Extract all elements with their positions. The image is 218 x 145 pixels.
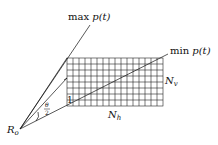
min-p-label: min p(t)	[170, 45, 211, 56]
ray-to-grid-top-left	[20, 58, 67, 129]
angle-numerator: θ	[45, 101, 49, 108]
max-p-label: max p(t)	[68, 11, 111, 22]
labels: max p(t) min p(t) Nv Nh Ro θ 2 1	[6, 11, 211, 137]
origin-label: Ro	[6, 124, 19, 137]
one-label: 1	[67, 95, 73, 105]
n-v-label: Nv	[164, 75, 178, 88]
angle-denominator: 2	[45, 109, 49, 116]
radar-grid-diagram: max p(t) min p(t) Nv Nh Ro θ 2 1	[0, 0, 218, 145]
rays	[20, 25, 168, 129]
min-p-ray	[20, 54, 168, 129]
n-h-label: Nh	[107, 109, 121, 122]
grid	[67, 58, 163, 106]
ray-to-grid-inner	[20, 78, 67, 129]
